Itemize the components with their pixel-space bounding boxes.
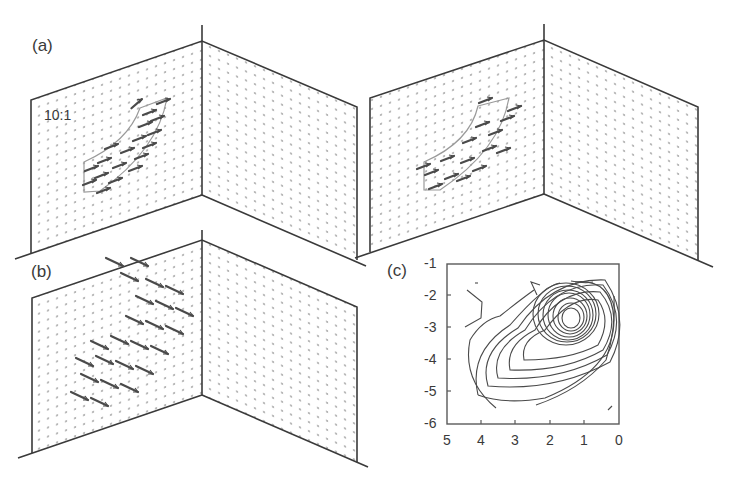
plane-left: [31, 41, 202, 253]
x-tick-label: 5: [443, 432, 451, 448]
y-tick-label: -3: [424, 319, 436, 335]
y-tick-label: -5: [424, 383, 436, 399]
panel-label-a: (a): [32, 36, 53, 56]
axis-ticks: [447, 295, 584, 424]
panel-a-left: [15, 25, 366, 266]
panel-label-b: (b): [31, 262, 52, 282]
y-tick-label: -1: [424, 255, 436, 271]
x-tick-label: 0: [615, 432, 623, 448]
x-tick-label: 2: [546, 432, 554, 448]
y-tick-label: -6: [424, 415, 436, 431]
plane-left: [32, 240, 202, 453]
y-tick-label: -4: [424, 351, 436, 367]
contour-lines: [465, 280, 620, 410]
ratio-label: 10:1: [44, 107, 71, 123]
panel-b: [18, 230, 368, 467]
panel-c-contour-plot: [447, 264, 620, 424]
figure-canvas: [0, 0, 731, 487]
x-tick-label: 3: [511, 432, 519, 448]
x-tick-label: 4: [477, 432, 485, 448]
x-tick-label: 1: [580, 432, 588, 448]
panel-label-c: (c): [387, 261, 407, 281]
plane-left: [370, 40, 544, 252]
panel-a-right: [355, 24, 713, 267]
y-tick-label: -2: [424, 287, 436, 303]
